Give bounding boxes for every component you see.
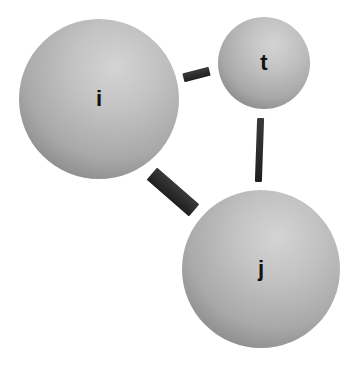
node-j-label: j bbox=[258, 258, 264, 280]
node-j: j bbox=[182, 190, 340, 348]
molecule-diagram: i t j bbox=[0, 0, 358, 376]
bond-i-j bbox=[147, 168, 200, 217]
bond-i-t bbox=[182, 67, 210, 82]
bond-t-j bbox=[255, 118, 264, 182]
node-i-label: i bbox=[96, 88, 102, 110]
node-i: i bbox=[19, 19, 179, 179]
node-t-label: t bbox=[260, 52, 267, 74]
node-t: t bbox=[218, 17, 310, 109]
